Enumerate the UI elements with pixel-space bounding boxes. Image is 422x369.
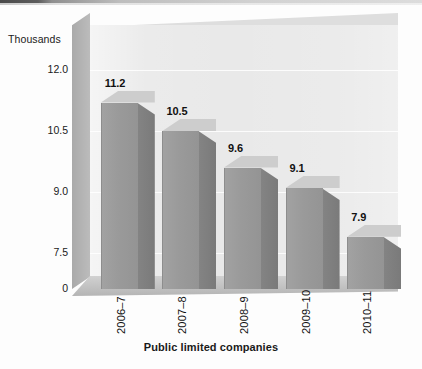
x-axis-category-label: 2010–11 bbox=[361, 291, 373, 334]
bar-side-face bbox=[260, 168, 278, 289]
bar-value-label: 10.5 bbox=[166, 105, 187, 117]
bar-top-face bbox=[286, 176, 340, 188]
y-axis-tick-label: 10.5 bbox=[6, 124, 68, 136]
y-axis-tick-labels: 12.010.59.07.50 bbox=[0, 0, 68, 369]
x-axis-category-label: 2007–8 bbox=[176, 296, 188, 334]
bar-front-face bbox=[286, 188, 323, 289]
bar-side-face bbox=[198, 131, 216, 289]
bar-top-face bbox=[224, 156, 278, 168]
bar-chart: 11.210.59.69.17.9 12.010.59.07.50 Thousa… bbox=[0, 0, 422, 369]
y-axis-tick-label: 7.5 bbox=[6, 246, 68, 258]
bar-front-face bbox=[162, 131, 199, 289]
y-axis-units-label: Thousands bbox=[8, 33, 61, 45]
y-axis-tick-label: 0 bbox=[6, 282, 68, 294]
bar-top-face bbox=[162, 119, 216, 131]
bar-top-face bbox=[347, 225, 401, 237]
bar-front-face bbox=[224, 168, 261, 289]
plot-left-wall-shading bbox=[72, 13, 90, 289]
bar-value-label: 9.1 bbox=[290, 162, 305, 174]
x-axis-category-label: 2006–7 bbox=[115, 296, 127, 334]
bar-side-face bbox=[137, 103, 155, 289]
bar-front-face bbox=[347, 237, 384, 289]
bar-top-face bbox=[101, 91, 155, 103]
bar-side-face bbox=[383, 237, 401, 289]
bar-side-face bbox=[322, 188, 340, 289]
chart-screenshot: 11.210.59.69.17.9 12.010.59.07.50 Thousa… bbox=[0, 0, 422, 369]
gridline bbox=[90, 70, 398, 71]
bar-value-label: 9.6 bbox=[228, 142, 243, 154]
y-axis-tick-label: 9.0 bbox=[6, 185, 68, 197]
x-axis-category-label: 2008–9 bbox=[238, 296, 250, 334]
bar-value-label: 11.2 bbox=[105, 77, 125, 89]
bar-column bbox=[347, 225, 383, 289]
bar-column bbox=[162, 119, 198, 289]
y-axis-tick-label: 12.0 bbox=[6, 63, 68, 75]
x-axis-title: Public limited companies bbox=[0, 341, 422, 353]
bar-front-face bbox=[101, 103, 138, 289]
bar-column bbox=[224, 156, 260, 289]
bar-value-label: 7.9 bbox=[351, 211, 366, 223]
x-axis-category-label: 2009–10 bbox=[300, 290, 312, 334]
bar-column bbox=[101, 91, 137, 289]
bar-column bbox=[286, 176, 322, 289]
